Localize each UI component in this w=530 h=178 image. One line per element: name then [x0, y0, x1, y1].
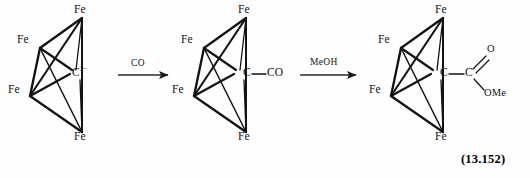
structure-ester-product-cluster: Fe Fe Fe Fe C C O OMe — [0, 0, 530, 178]
fe-label-upper-left: Fe — [378, 34, 390, 46]
ester-carbon-label: C — [465, 67, 473, 79]
reaction-scheme: Fe Fe Fe Fe C2− CO Fe Fe Fe Fe C CO MeOH… — [0, 0, 530, 178]
methoxy-label: OMe — [484, 88, 506, 99]
fe-label-bottom: Fe — [435, 131, 447, 143]
carbide-center-label: C — [440, 67, 448, 79]
equation-number: (13.152) — [461, 152, 505, 167]
fe-label-left: Fe — [369, 84, 381, 96]
fe-label-top: Fe — [435, 4, 447, 16]
carbonyl-oxygen-label: O — [487, 44, 495, 55]
